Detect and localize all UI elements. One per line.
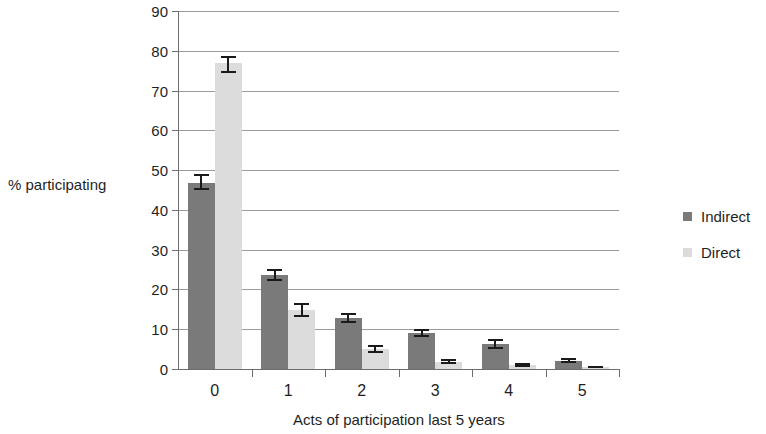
x-tick-label-5: 5 (562, 382, 602, 400)
bar-chart-figure: % participating 0102030405060708090 0123… (0, 0, 766, 434)
x-tick-label-0: 0 (195, 382, 235, 400)
bar-indirect-2 (335, 318, 362, 369)
y-tick-label-40: 40 (132, 203, 168, 218)
error-cap-bottom (368, 351, 383, 353)
gridline-10 (178, 329, 619, 330)
gridline-90 (178, 11, 619, 12)
error-bar-direct-3 (441, 359, 456, 364)
x-tick-0 (252, 370, 253, 377)
x-tick-1 (325, 370, 326, 377)
bar-direct-0 (215, 63, 242, 369)
bar-indirect-3 (408, 333, 435, 369)
bar-indirect-0 (188, 183, 215, 369)
x-tick-label-4: 4 (489, 382, 529, 400)
error-bar-direct-0 (221, 56, 236, 72)
y-tick-label-0: 0 (132, 362, 168, 377)
y-tick-label-50: 50 (132, 163, 168, 178)
error-cap-bottom (294, 315, 309, 317)
error-cap-bottom (441, 362, 456, 364)
error-cap-bottom (588, 366, 603, 368)
error-cap-bottom (515, 365, 530, 367)
error-cap-bottom (488, 347, 503, 349)
y-tick-label-70: 70 (132, 84, 168, 99)
x-tick-label-3: 3 (415, 382, 455, 400)
gridline-40 (178, 210, 619, 211)
legend-swatch-icon-direct (683, 248, 692, 257)
error-bar-direct-4 (515, 363, 530, 367)
error-cap-bottom (414, 335, 429, 337)
bar-direct-1 (288, 310, 315, 369)
error-bar-indirect-0 (194, 174, 209, 190)
legend-item-direct[interactable]: Direct (683, 234, 765, 270)
gridline-70 (178, 91, 619, 92)
legend-swatch-icon-indirect (683, 212, 692, 221)
error-cap-bottom (561, 361, 576, 363)
legend-item-indirect[interactable]: Indirect (683, 198, 765, 234)
x-tick-2 (399, 370, 400, 377)
x-tick-4 (546, 370, 547, 377)
gridline-60 (178, 130, 619, 131)
chart-legend: IndirectDirect (683, 198, 765, 270)
gridline-80 (178, 51, 619, 52)
y-axis-title: % participating (8, 176, 148, 194)
error-bar-indirect-1 (267, 269, 282, 281)
bar-indirect-1 (261, 275, 288, 369)
gridline-30 (178, 250, 619, 251)
x-tick-label-2: 2 (342, 382, 382, 400)
y-tick-label-20: 20 (132, 282, 168, 297)
y-tick-label-60: 60 (132, 123, 168, 138)
x-tick-label-1: 1 (268, 382, 308, 400)
x-tick-5 (619, 370, 620, 377)
gridline-20 (178, 289, 619, 290)
y-tick-label-90: 90 (132, 4, 168, 19)
error-bar-indirect-3 (414, 329, 429, 337)
y-tick-label-10: 10 (132, 322, 168, 337)
error-cap-bottom (221, 71, 236, 73)
x-axis-title: Acts of participation last 5 years (178, 411, 620, 429)
legend-label: Direct (701, 245, 740, 260)
gridline-50 (178, 170, 619, 171)
y-axis-tick-labels: 0102030405060708090 (128, 0, 168, 380)
y-tick-label-30: 30 (132, 243, 168, 258)
legend-label: Indirect (701, 209, 750, 224)
error-cap-bottom (194, 188, 209, 190)
error-bar-indirect-2 (341, 313, 356, 323)
error-bar-indirect-5 (561, 358, 576, 363)
error-bar-direct-2 (368, 345, 383, 353)
error-bar-direct-5 (588, 366, 603, 368)
error-bar-direct-1 (294, 303, 309, 317)
error-cap-bottom (267, 279, 282, 281)
y-axis-line (178, 11, 179, 370)
y-tick-label-80: 80 (132, 44, 168, 59)
x-tick-3 (472, 370, 473, 377)
plot-area (178, 11, 619, 369)
error-bar-indirect-4 (488, 339, 503, 349)
error-cap-bottom (341, 321, 356, 323)
